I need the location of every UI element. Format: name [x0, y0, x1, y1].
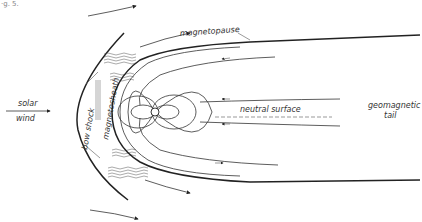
earth-icon [151, 108, 159, 116]
solar-wind-label: solar [18, 99, 38, 108]
neutral-surface-label: neutral surface [240, 105, 301, 114]
dipole-field-lines [118, 91, 212, 133]
caption-fragment: ·g. 5. [1, 0, 19, 8]
geomagnetic-tail-label-2: tail [384, 111, 397, 120]
magnetosheath-hatching [96, 80, 100, 120]
bow-shock-label: bow shock [80, 107, 96, 151]
solar-wind-label-2: wind [16, 114, 36, 123]
magnetopause-label: magnetopause [180, 25, 240, 38]
geomagnetic-tail-label: geomagnetic [368, 101, 421, 110]
magnetosphere-diagram: ·g. 5. solar wind bow shock magnetosheat… [0, 0, 422, 222]
